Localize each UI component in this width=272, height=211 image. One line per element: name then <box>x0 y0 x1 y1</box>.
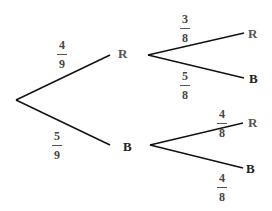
fraction-bar <box>180 28 190 29</box>
fraction-bar <box>180 85 190 86</box>
denominator: 8 <box>178 89 192 101</box>
tree-branches <box>0 0 272 211</box>
node-red-blue: B <box>249 72 258 85</box>
prob-red-then-red: 3 8 <box>178 13 192 44</box>
numerator: 5 <box>178 70 192 82</box>
denominator: 8 <box>215 191 229 203</box>
denominator: 9 <box>55 58 69 70</box>
fraction-bar <box>217 123 227 124</box>
node-blue-red: R <box>248 116 257 129</box>
denominator: 8 <box>215 127 229 139</box>
fraction-bar <box>52 145 62 146</box>
prob-blue-then-blue: 4 8 <box>215 172 229 203</box>
node-blue-blue: B <box>246 162 255 175</box>
node-red-red: R <box>248 27 257 40</box>
fraction-bar <box>217 187 227 188</box>
branch-blue-red <box>150 123 243 145</box>
branch-blue-blue <box>150 145 243 168</box>
prob-blue-then-red: 4 8 <box>215 108 229 139</box>
numerator: 5 <box>50 130 64 142</box>
prob-first-blue: 5 9 <box>50 130 64 161</box>
fraction-bar <box>57 54 67 55</box>
prob-first-red: 4 9 <box>55 39 69 70</box>
numerator: 4 <box>215 108 229 120</box>
prob-red-then-blue: 5 8 <box>178 70 192 101</box>
denominator: 8 <box>178 32 192 44</box>
branch-red-blue <box>148 55 244 78</box>
denominator: 9 <box>50 149 64 161</box>
branch-red-red <box>148 33 244 55</box>
numerator: 4 <box>55 39 69 51</box>
node-first-blue: B <box>123 140 132 153</box>
numerator: 4 <box>215 172 229 184</box>
numerator: 3 <box>178 13 192 25</box>
node-first-red: R <box>118 47 127 60</box>
